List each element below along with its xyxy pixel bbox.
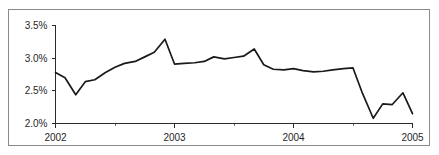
series-line-rate — [56, 39, 413, 118]
y-tick-label-3: 3.5% — [25, 20, 48, 31]
y-axis-tick-labels: 2.0%2.5%3.0%3.5% — [25, 20, 48, 129]
chart-figure: 2.0%2.5%3.0%3.5% 2002200320042005 — [0, 0, 439, 155]
x-axis-tick-labels: 2002200320042005 — [44, 132, 424, 143]
x-tick-label-2: 2004 — [282, 132, 305, 143]
x-tick-label-3: 2005 — [401, 132, 424, 143]
data-series-group — [56, 39, 413, 118]
line-chart-plot: 2.0%2.5%3.0%3.5% 2002200320042005 — [0, 0, 439, 155]
y-axis-ticks — [52, 26, 56, 124]
x-tick-label-1: 2003 — [163, 132, 186, 143]
x-tick-label-0: 2002 — [44, 132, 67, 143]
y-tick-label-1: 2.5% — [25, 85, 48, 96]
y-tick-label-0: 2.0% — [25, 118, 48, 129]
y-tick-label-2: 3.0% — [25, 53, 48, 64]
x-axis-ticks — [56, 124, 413, 128]
